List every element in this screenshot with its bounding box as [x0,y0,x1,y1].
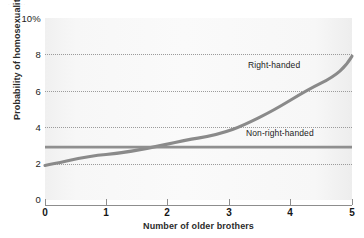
y-tick-label-8: 8 [0,49,41,60]
series-line-right-handed [45,56,352,165]
x-tick-5 [352,199,353,205]
x-tick-label-5: 5 [340,207,364,218]
y-tick-label-6: 6 [0,86,41,97]
series-layer [45,18,352,200]
chart-figure: · ·· ·· Right-handed Non-right-handed Pr… [0,0,364,238]
x-tick-label-3: 3 [217,207,241,218]
y-tick-label-2: 2 [0,158,41,169]
y-axis-tick-labels: 10% 8 6 4 2 0 [0,0,41,238]
y-tick-label-0: 0 [0,194,41,205]
x-tick-4 [290,199,291,205]
x-tick-1 [106,199,107,205]
x-tick-label-1: 1 [94,207,118,218]
x-tick-3 [229,199,230,205]
y-tick-label-4: 4 [0,122,41,133]
x-axis-title: Number of older brothers [45,221,352,231]
x-tick-2 [167,199,168,205]
x-tick-0 [45,199,46,205]
x-axis-line [45,205,352,206]
x-tick-label-0: 0 [33,207,57,218]
x-tick-label-2: 2 [155,207,179,218]
annotation-non-right-handed: Non-right-handed [244,128,316,138]
annotation-right-handed: Right-handed [246,60,302,70]
x-tick-label-4: 4 [278,207,302,218]
y-tick-label-10: 10% [0,13,41,24]
